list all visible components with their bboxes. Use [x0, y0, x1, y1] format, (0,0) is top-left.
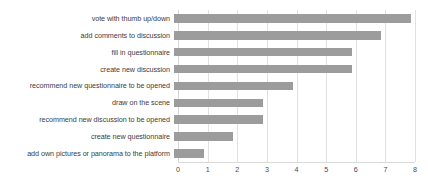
bar[interactable] [174, 115, 263, 124]
category-label: create new questionnaire [0, 132, 174, 141]
chart-row: fill in questionnaire [0, 44, 428, 61]
bar[interactable] [174, 48, 352, 57]
bar-cell [174, 128, 411, 145]
bar-cell [174, 94, 411, 111]
x-tick-label: 8 [413, 165, 417, 175]
bar[interactable] [174, 31, 381, 40]
bar[interactable] [174, 132, 233, 141]
bar-cell [174, 10, 411, 27]
chart-row: create new questionnaire [0, 128, 428, 145]
bar-chart: vote with thumb up/downadd comments to d… [0, 0, 428, 186]
chart-row: vote with thumb up/down [0, 10, 428, 27]
chart-row: recommend new questionnaire to be opened [0, 78, 428, 95]
bar-cell [174, 61, 411, 78]
x-axis-line [178, 162, 415, 163]
x-tick-label: 0 [176, 165, 180, 175]
category-label: add own pictures or panorama to the plat… [0, 149, 174, 158]
category-label: fill in questionnaire [0, 48, 174, 57]
category-label: vote with thumb up/down [0, 14, 174, 23]
bar-cell [174, 145, 411, 162]
category-label: add comments to discussion [0, 31, 174, 40]
category-label: recommend new questionnaire to be opened [0, 81, 174, 90]
chart-row: recommend new discussion to be opened [0, 111, 428, 128]
bar-cell [174, 44, 411, 61]
x-tick-label: 1 [206, 165, 210, 175]
bar-cell [174, 111, 411, 128]
category-label: create new discussion [0, 65, 174, 74]
chart-row: create new discussion [0, 61, 428, 78]
bar-cell [174, 27, 411, 44]
chart-row: add comments to discussion [0, 27, 428, 44]
x-tick-label: 6 [354, 165, 358, 175]
chart-row: add own pictures or panorama to the plat… [0, 145, 428, 162]
bar[interactable] [174, 82, 293, 91]
x-axis-tick-labels: 012345678 [178, 165, 415, 179]
bar-cell [174, 78, 411, 95]
x-tick-label: 2 [235, 165, 239, 175]
bar[interactable] [174, 65, 352, 74]
bar[interactable] [174, 14, 411, 23]
chart-row: draw on the scene [0, 94, 428, 111]
category-label: draw on the scene [0, 98, 174, 107]
category-label: recommend new discussion to be opened [0, 115, 174, 124]
x-tick-label: 5 [324, 165, 328, 175]
x-tick-label: 3 [265, 165, 269, 175]
bar[interactable] [174, 149, 204, 158]
bar[interactable] [174, 99, 263, 108]
x-tick-label: 7 [383, 165, 387, 175]
x-tick-label: 4 [295, 165, 299, 175]
chart-rows: vote with thumb up/downadd comments to d… [0, 10, 428, 162]
